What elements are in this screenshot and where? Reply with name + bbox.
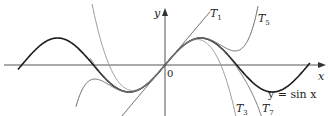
origin-label: 0	[167, 68, 173, 79]
t3-label: T3	[236, 102, 248, 116]
taylor-sine-diagram: y x 0 T1 T5 T3 T7 y = sin x	[0, 0, 330, 116]
x-axis-arrow-icon	[318, 62, 326, 68]
x-axis-label: x	[318, 70, 325, 83]
t7-label: T7	[262, 102, 274, 116]
sine-label: y = sin x	[267, 88, 317, 101]
y-axis-label: y	[153, 7, 161, 20]
t1-label: T1	[210, 7, 222, 22]
t5-label: T5	[258, 12, 270, 27]
t5-curve	[76, 6, 258, 107]
y-axis-arrow-icon	[162, 8, 168, 16]
